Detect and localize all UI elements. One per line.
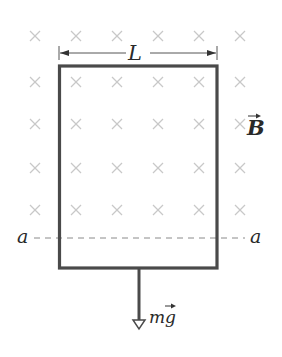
field-cross-icon [235,163,245,173]
field-cross-icon [112,119,122,129]
arrowhead-right-icon [207,50,216,56]
field-cross-icon [30,205,40,215]
field-cross-icon [153,77,163,87]
field-cross-icon [153,163,163,173]
field-cross-icon [235,77,245,87]
field-cross-icon [30,163,40,173]
width-label: L [128,43,142,64]
field-cross-icon [71,31,81,41]
field-cross-icon [235,205,245,215]
field-cross-icon [194,77,204,87]
boundary-label-left: a [17,227,28,246]
field-cross-icon [71,119,81,129]
field-cross-icon [112,77,122,87]
field-cross-icon [153,119,163,129]
field-cross-icon [153,31,163,41]
field-cross-icon [112,163,122,173]
field-cross-icon [112,205,122,215]
boundary-label-right: a [250,227,261,246]
field-cross-icon [235,31,245,41]
weight-arrowhead-icon [133,320,145,329]
field-cross-icon [194,119,204,129]
physics-diagram: L B a a mg [0,0,282,357]
field-cross-icon [71,163,81,173]
field-cross-icon [71,77,81,87]
arrowhead-left-icon [60,50,69,56]
field-cross-icon [112,31,122,41]
field-cross-icon [30,31,40,41]
field-cross-icon [30,77,40,87]
field-cross-icon [235,119,245,129]
field-label: B [247,117,265,138]
field-cross-icon [194,163,204,173]
field-cross-icon [194,205,204,215]
field-cross-icon [153,205,163,215]
weight-label: mg [149,309,176,326]
field-cross-icon [194,31,204,41]
field-cross-icon [71,205,81,215]
field-cross-icon [30,119,40,129]
